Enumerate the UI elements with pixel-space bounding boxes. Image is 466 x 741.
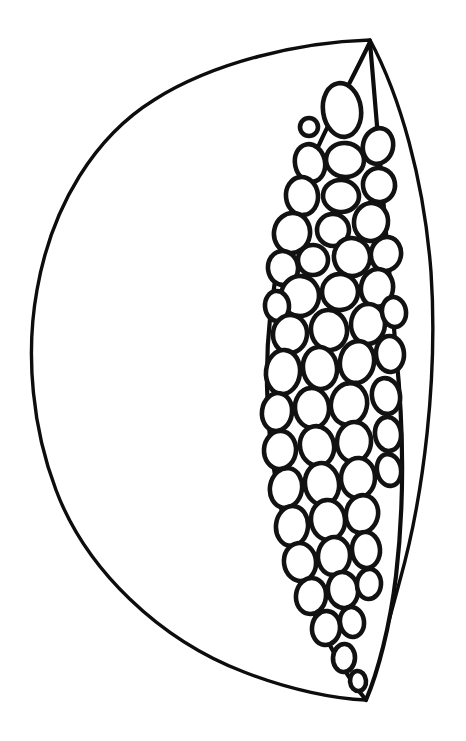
seed: [351, 531, 381, 569]
seed: [284, 175, 320, 216]
seed: [322, 179, 360, 213]
seed: [324, 141, 365, 179]
seed: [340, 457, 377, 499]
seed: [274, 504, 310, 547]
seed: [338, 605, 366, 638]
line-art-drawing: [0, 0, 466, 741]
seed: [297, 244, 328, 275]
seed: [263, 430, 298, 470]
seed: [332, 643, 356, 672]
seed: [380, 295, 408, 328]
seed: [264, 348, 302, 395]
seed: [373, 416, 402, 453]
illustration-canvas: Halved fruit line drawing: [0, 0, 466, 741]
seed: [310, 610, 341, 647]
seed: [349, 670, 367, 692]
seed: [293, 386, 331, 429]
seed: [300, 118, 318, 136]
seed: [356, 568, 382, 600]
seed: [320, 272, 360, 312]
seed: [375, 335, 405, 373]
seed: [309, 498, 347, 541]
